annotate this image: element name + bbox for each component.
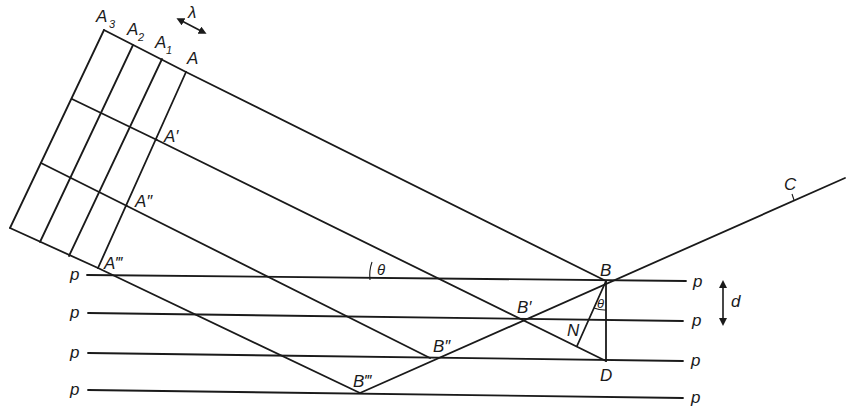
plane-2 (88, 313, 683, 321)
label-A3: A (95, 7, 107, 26)
svg-text:2: 2 (137, 31, 144, 43)
label-p-right-4: p (690, 388, 700, 407)
label-C: C (784, 175, 797, 194)
ray-A-B (186, 72, 606, 281)
svg-text:3: 3 (109, 18, 116, 30)
label-p-left-3: p (69, 343, 79, 362)
label-A2: A (126, 20, 138, 39)
label-B: B (600, 261, 611, 280)
label-D: D (600, 366, 612, 385)
label-p-left-4: p (69, 380, 79, 399)
label-N: N (567, 321, 580, 340)
ray-Adprime-Bdprime (127, 206, 430, 358)
label-B-tprime: B‴ (353, 372, 372, 391)
label-theta-right: θ (597, 296, 604, 311)
label-p-left-1: p (69, 265, 79, 284)
wavefront-grid (10, 30, 186, 268)
bragg-diagram: A 3 A 2 A 1 A λ A′ A″ A‴ θ θ B B′ B″ B‴ … (0, 0, 857, 412)
label-A-prime: A′ (163, 127, 179, 146)
label-A1: A (154, 33, 166, 52)
label-A-tprime: A‴ (103, 254, 123, 273)
label-p-right-1: p (692, 272, 702, 291)
incident-rays (98, 72, 606, 393)
label-A: A (186, 49, 198, 68)
label-d: d (731, 292, 741, 311)
label-B-prime: B′ (517, 298, 532, 317)
plane-4 (88, 390, 683, 398)
label-theta-left: θ (377, 261, 385, 278)
label-B-dprime: B″ (433, 337, 451, 356)
label-p-right-2: p (691, 311, 701, 330)
label-A-dprime: A″ (134, 192, 153, 211)
label-p-left-2: p (69, 303, 79, 322)
ray-Atprime-Btprime (98, 268, 360, 393)
label-lambda: λ (187, 3, 196, 22)
label-p-right-3: p (690, 351, 700, 370)
svg-text:1: 1 (166, 44, 172, 56)
